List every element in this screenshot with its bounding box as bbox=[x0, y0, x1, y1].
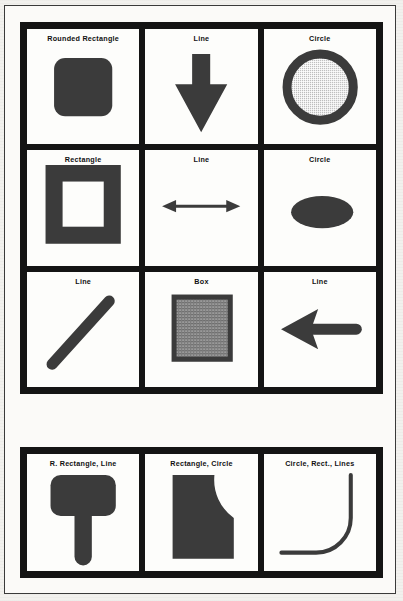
cell-label: Box bbox=[145, 277, 257, 286]
double-headed-arrow-horizontal-icon bbox=[145, 165, 257, 265]
cell-label: Line bbox=[27, 277, 139, 286]
scanned-page: Rounded Rectangle Line Circle bbox=[0, 0, 403, 601]
cell-label: Circle bbox=[264, 34, 376, 43]
ellipse-filled-icon bbox=[264, 165, 376, 265]
rectangle-outline-thick-icon bbox=[27, 165, 139, 265]
cell-label: R. Rectangle, Line bbox=[27, 459, 139, 468]
cell-label: Circle bbox=[264, 155, 376, 164]
tee-rounded-rect-with-stem-icon bbox=[27, 469, 139, 571]
shape-cell-line-diagonal[interactable]: Line bbox=[27, 272, 139, 387]
elbow-curve-stroke-icon bbox=[264, 469, 376, 571]
primitive-shapes-grid: Rounded Rectangle Line Circle bbox=[20, 22, 383, 394]
cell-label: Rounded Rectangle bbox=[27, 34, 139, 43]
shape-cell-ellipse[interactable]: Circle bbox=[264, 150, 376, 265]
arrow-down-solid-icon bbox=[145, 44, 257, 144]
shape-cell-rounded-rectangle-line[interactable]: R. Rectangle, Line bbox=[27, 454, 139, 571]
rounded-rectangle-filled-icon bbox=[27, 44, 139, 144]
cell-label: Circle, Rect., Lines bbox=[264, 459, 376, 468]
shape-cell-line-double-arrow[interactable]: Line bbox=[145, 150, 257, 265]
arrow-left-solid-icon bbox=[264, 287, 376, 387]
box-hatched-fill-icon bbox=[145, 287, 257, 387]
shape-cell-circle-rect-lines[interactable]: Circle, Rect., Lines bbox=[264, 454, 376, 571]
circle-ring-stippled-icon bbox=[264, 44, 376, 144]
shape-cell-rectangle-outline[interactable]: Rectangle bbox=[27, 150, 139, 265]
cell-label: Line bbox=[145, 155, 257, 164]
cell-label: Rectangle, Circle bbox=[145, 459, 257, 468]
shape-cell-rounded-rectangle[interactable]: Rounded Rectangle bbox=[27, 29, 139, 144]
cell-label: Line bbox=[145, 34, 257, 43]
diagonal-line-round-caps-icon bbox=[27, 287, 139, 387]
shape-cell-circle-ring[interactable]: Circle bbox=[264, 29, 376, 144]
shape-cell-box[interactable]: Box bbox=[145, 272, 257, 387]
shape-cell-line-arrow-down[interactable]: Line bbox=[145, 29, 257, 144]
combined-shapes-grid: R. Rectangle, Line Rectangle, Circle Cir… bbox=[20, 447, 383, 578]
square-with-concave-corner-icon bbox=[145, 469, 257, 571]
cell-label: Rectangle bbox=[27, 155, 139, 164]
shape-cell-line-arrow-left[interactable]: Line bbox=[264, 272, 376, 387]
shape-cell-rectangle-circle[interactable]: Rectangle, Circle bbox=[145, 454, 257, 571]
cell-label: Line bbox=[264, 277, 376, 286]
